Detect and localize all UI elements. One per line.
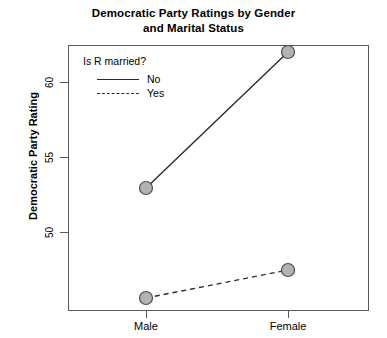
y-tick-mark-55 [60, 157, 68, 158]
x-tick-label-male: Male [106, 320, 186, 332]
legend-item-yes: Yes [97, 86, 164, 100]
y-axis-label: Democratic Party Rating [27, 61, 39, 251]
legend-title: Is R married? [83, 55, 164, 68]
chart-title: Democratic Party Ratings by Gender and M… [0, 6, 387, 36]
chart-title-line-1: Democratic Party Ratings by Gender [92, 7, 295, 19]
y-tick-label-50: 50 [44, 218, 55, 248]
legend: Is R married? No Yes [83, 55, 164, 100]
y-tick-mark-60 [60, 82, 68, 83]
x-tick-mark-female [288, 311, 289, 318]
y-tick-label-60: 60 [44, 68, 55, 98]
y-tick-mark-50 [60, 232, 68, 233]
x-tick-label-female: Female [248, 320, 328, 332]
legend-label-no: No [147, 73, 160, 85]
legend-label-yes: Yes [147, 87, 164, 99]
legend-line-solid-icon [97, 74, 139, 84]
y-tick-label-55: 55 [44, 143, 55, 173]
chart-title-line-2: and Marital Status [0, 21, 387, 36]
chart-canvas: Democratic Party Ratings by Gender and M… [0, 0, 387, 338]
legend-line-dashed-icon [97, 88, 139, 98]
x-tick-mark-male [146, 311, 147, 318]
legend-item-no: No [97, 72, 164, 86]
